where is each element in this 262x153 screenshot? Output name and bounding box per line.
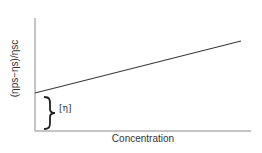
data-line xyxy=(35,41,241,93)
brace-icon xyxy=(44,97,55,129)
y-axis-label-text: (ηps−ηs)/ηsc xyxy=(10,39,21,97)
x-axis-label: Concentration xyxy=(35,133,251,144)
chart-canvas xyxy=(0,0,262,153)
intrinsic-viscosity-annotation: [η] xyxy=(59,103,71,113)
y-axis-label: (ηps−ηs)/ηsc xyxy=(2,18,28,118)
